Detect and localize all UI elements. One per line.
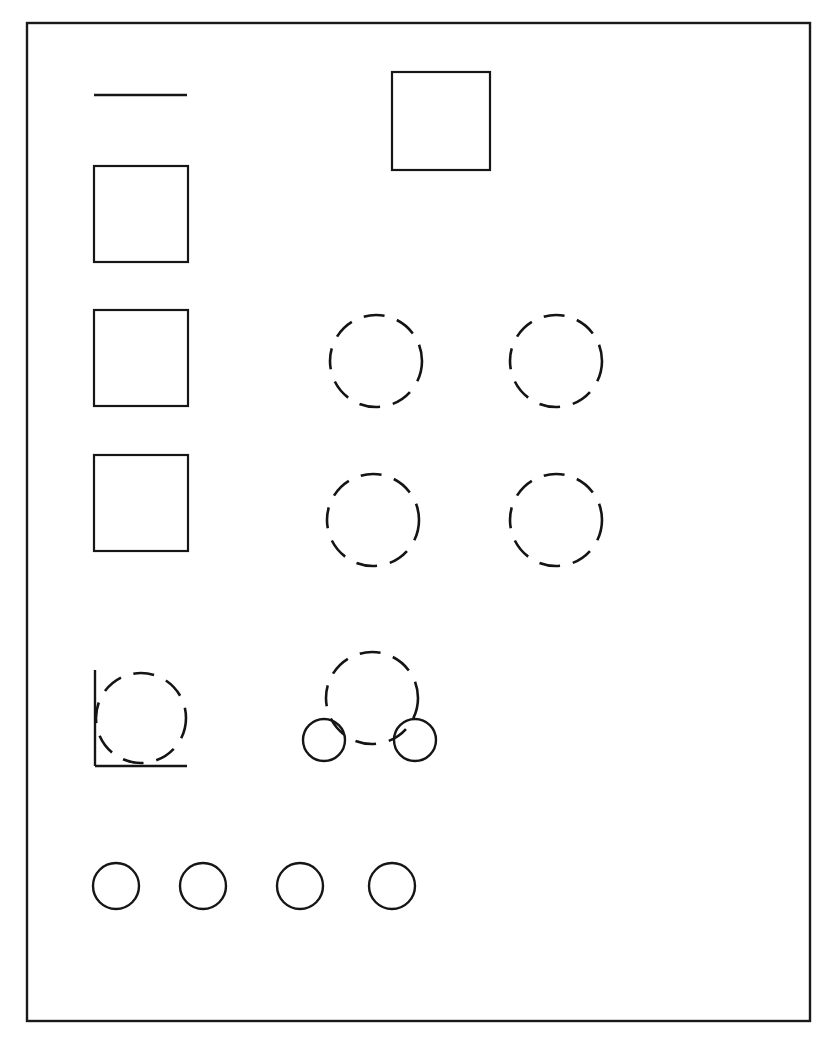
dashed-circle-r1-c1 — [330, 315, 422, 407]
bottom-circle-2 — [180, 863, 226, 909]
dashed-circle-r2-c2 — [510, 474, 602, 566]
square-left-2 — [94, 310, 188, 406]
square-top-right — [392, 72, 490, 170]
dashed-circle-r1-c2 — [510, 315, 602, 407]
geometric-figure-svg — [0, 0, 837, 1047]
square-left-1 — [94, 166, 188, 262]
square-left-3 — [94, 455, 188, 551]
bottom-circle-3 — [277, 863, 323, 909]
bottom-circle-4 — [369, 863, 415, 909]
dashed-circle-center-large — [326, 652, 418, 744]
figure-canvas — [0, 0, 837, 1047]
dashed-circle-r2-c1 — [327, 474, 419, 566]
small-circle-right — [394, 719, 436, 761]
small-circle-left — [303, 719, 345, 761]
dashed-circle-corner — [96, 673, 186, 763]
bottom-circle-1 — [93, 863, 139, 909]
